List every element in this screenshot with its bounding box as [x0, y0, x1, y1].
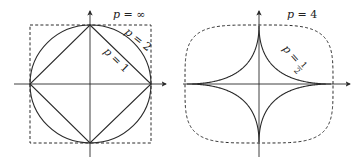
- lp-norm-figure: p = ∞ p = 2 p = 1 p = 4 p = 1 2: [0, 0, 364, 163]
- label-p-1: p = 1: [101, 45, 132, 75]
- label-p-infinity: p = ∞: [113, 8, 145, 21]
- label-p-2: p = 2: [122, 25, 154, 54]
- right-panel: p = 4 p = 1 2: [183, 8, 350, 157]
- label-p-4: p = 4: [287, 8, 317, 21]
- left-panel: p = ∞ p = 2 p = 1: [14, 8, 166, 157]
- svg-text:p =: p =: [280, 42, 303, 65]
- label-p-half: p = 1 2: [276, 42, 309, 76]
- svg-text:2: 2: [292, 66, 302, 76]
